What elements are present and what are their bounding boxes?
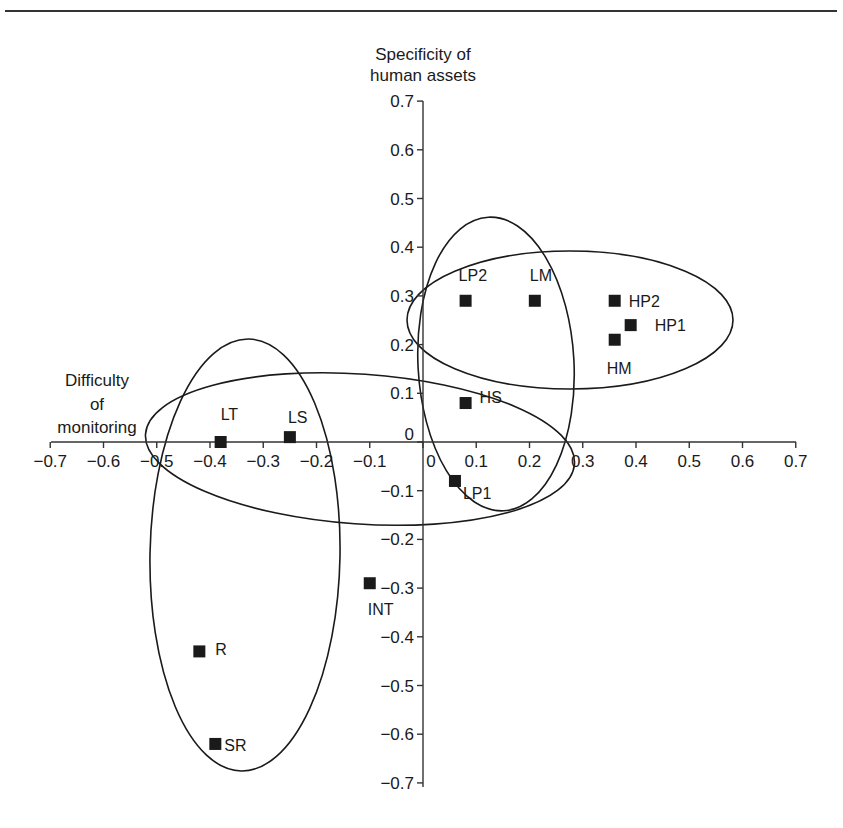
x-tick-label: 0.1 bbox=[464, 452, 488, 471]
data-point: R bbox=[193, 641, 227, 658]
y-axis-title-line2: human assets bbox=[370, 66, 476, 85]
y-tick-label: −0.3 bbox=[380, 579, 414, 598]
square-marker-icon bbox=[460, 295, 472, 307]
x-tick-label: −0.5 bbox=[140, 452, 174, 471]
square-marker-icon bbox=[364, 577, 376, 589]
point-label: LP1 bbox=[463, 485, 492, 502]
point-label: LP2 bbox=[459, 267, 488, 284]
y-tick-label: −0.7 bbox=[380, 774, 414, 793]
y-tick-label: 0 bbox=[405, 425, 414, 444]
square-marker-icon bbox=[209, 738, 221, 750]
data-point: HP2 bbox=[609, 293, 660, 310]
square-marker-icon bbox=[529, 295, 541, 307]
square-marker-icon bbox=[625, 319, 637, 331]
x-tick-label: −0.2 bbox=[300, 452, 334, 471]
point-label: R bbox=[215, 641, 227, 658]
y-tick-label: 0.2 bbox=[390, 336, 414, 355]
point-label: LM bbox=[530, 267, 552, 284]
x-axis-title-line2: of bbox=[90, 395, 104, 414]
data-point: LP2 bbox=[459, 267, 488, 307]
x-tick-label: −0.3 bbox=[246, 452, 280, 471]
data-point: LM bbox=[529, 267, 552, 307]
square-marker-icon bbox=[449, 475, 461, 487]
scatter-chart: −0.7−0.6−0.5−0.4−0.3−0.2−0.10.10.20.30.4… bbox=[0, 0, 843, 828]
square-marker-icon bbox=[609, 295, 621, 307]
x-tick-label: 0.7 bbox=[784, 452, 808, 471]
x-ticks bbox=[50, 442, 796, 448]
data-point: HP1 bbox=[625, 317, 686, 334]
x-axis-title: Difficulty of monitoring bbox=[57, 371, 136, 437]
data-point: LS bbox=[284, 409, 308, 443]
x-tick-label: −0.1 bbox=[353, 452, 387, 471]
square-marker-icon bbox=[193, 645, 205, 657]
point-label: LT bbox=[221, 406, 239, 423]
point-label: HS bbox=[480, 389, 502, 406]
x-tick-label: 0.4 bbox=[624, 452, 648, 471]
square-marker-icon bbox=[215, 436, 227, 448]
axes bbox=[50, 101, 796, 787]
ellipse-left-vertical bbox=[146, 337, 344, 772]
point-label: HP1 bbox=[655, 317, 686, 334]
y-tick-label: 0.6 bbox=[390, 141, 414, 160]
point-label: HP2 bbox=[629, 293, 660, 310]
y-tick-label: 0.3 bbox=[390, 287, 414, 306]
y-axis-title-line1: Specificity of bbox=[375, 45, 471, 64]
x-tick-label: 0.3 bbox=[571, 452, 595, 471]
x-tick-label: 0.6 bbox=[731, 452, 755, 471]
x-tick-label: 0.2 bbox=[518, 452, 542, 471]
data-point: HM bbox=[607, 334, 632, 377]
ellipse-middle-horizontal bbox=[140, 359, 579, 539]
square-marker-icon bbox=[609, 334, 621, 346]
x-tick-label: 0.5 bbox=[677, 452, 701, 471]
square-marker-icon bbox=[460, 397, 472, 409]
y-tick-label: 0.1 bbox=[390, 384, 414, 403]
x-tick-label: −0.7 bbox=[33, 452, 67, 471]
x-axis-title-line1: Difficulty bbox=[65, 371, 129, 390]
y-axis-title: Specificity of human assets bbox=[370, 45, 476, 85]
data-point: LP1 bbox=[449, 475, 492, 502]
y-tick-label: −0.4 bbox=[380, 628, 414, 647]
square-marker-icon bbox=[284, 431, 296, 443]
y-tick-label: −0.1 bbox=[380, 482, 414, 501]
x-tick-labels: −0.7−0.6−0.5−0.4−0.3−0.2−0.10.10.20.30.4… bbox=[33, 452, 807, 471]
data-point: SR bbox=[209, 737, 246, 754]
y-tick-label: 0.7 bbox=[390, 92, 414, 111]
y-ticks bbox=[417, 101, 423, 783]
point-label: INT bbox=[368, 601, 394, 618]
x-tick-label-zero: 0 bbox=[426, 452, 435, 471]
y-tick-label: 0.5 bbox=[390, 190, 414, 209]
x-axis-title-line3: monitoring bbox=[57, 418, 136, 437]
y-tick-label: −0.6 bbox=[380, 725, 414, 744]
x-tick-label: −0.4 bbox=[193, 452, 227, 471]
y-tick-label: 0.4 bbox=[390, 238, 414, 257]
point-label: SR bbox=[224, 737, 246, 754]
x-tick-label: −0.6 bbox=[87, 452, 121, 471]
y-tick-label: −0.2 bbox=[380, 530, 414, 549]
point-label: HM bbox=[607, 360, 632, 377]
y-tick-label: −0.5 bbox=[380, 677, 414, 696]
point-label: LS bbox=[288, 409, 308, 426]
data-point: HS bbox=[460, 389, 502, 409]
